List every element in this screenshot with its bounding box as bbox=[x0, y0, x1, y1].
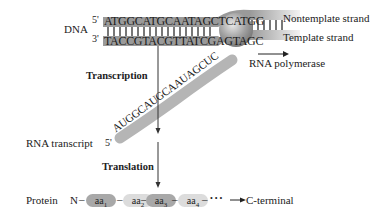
rna-transcript-label: RNA transcript bbox=[26, 137, 93, 149]
c-terminal-label: C-terminal bbox=[246, 194, 294, 206]
peptide-bond: – bbox=[79, 193, 85, 205]
peptide-bond: – bbox=[172, 193, 178, 205]
nontemplate-strand-label: Nontemplate strand bbox=[283, 12, 369, 24]
nontemplate-sequence: ATGGCATGCAATAGCTCATGG bbox=[104, 14, 264, 29]
template-strand-label: Template strand bbox=[283, 31, 353, 43]
protein-label: Protein bbox=[26, 194, 58, 206]
peptide-bond: – bbox=[202, 193, 208, 205]
rna-polymerase-label: RNA polymerase bbox=[249, 57, 325, 69]
template-sequence: TACCGTACGTTATCGAGTAGC bbox=[104, 34, 263, 49]
rna-5prime: 5' bbox=[105, 137, 112, 148]
dna-label: DNA bbox=[64, 23, 88, 35]
peptide-bond: – bbox=[117, 193, 123, 205]
dna-bottom-3prime: 3' bbox=[92, 33, 99, 44]
dna-top-5prime: 5' bbox=[92, 14, 99, 25]
amino-acid-1: aa1 bbox=[86, 194, 116, 207]
continuation-dots: • • • bbox=[210, 194, 222, 203]
transcription-label: Transcription bbox=[86, 70, 148, 81]
translation-label: Translation bbox=[102, 161, 154, 172]
n-terminal-label: N bbox=[70, 194, 78, 206]
